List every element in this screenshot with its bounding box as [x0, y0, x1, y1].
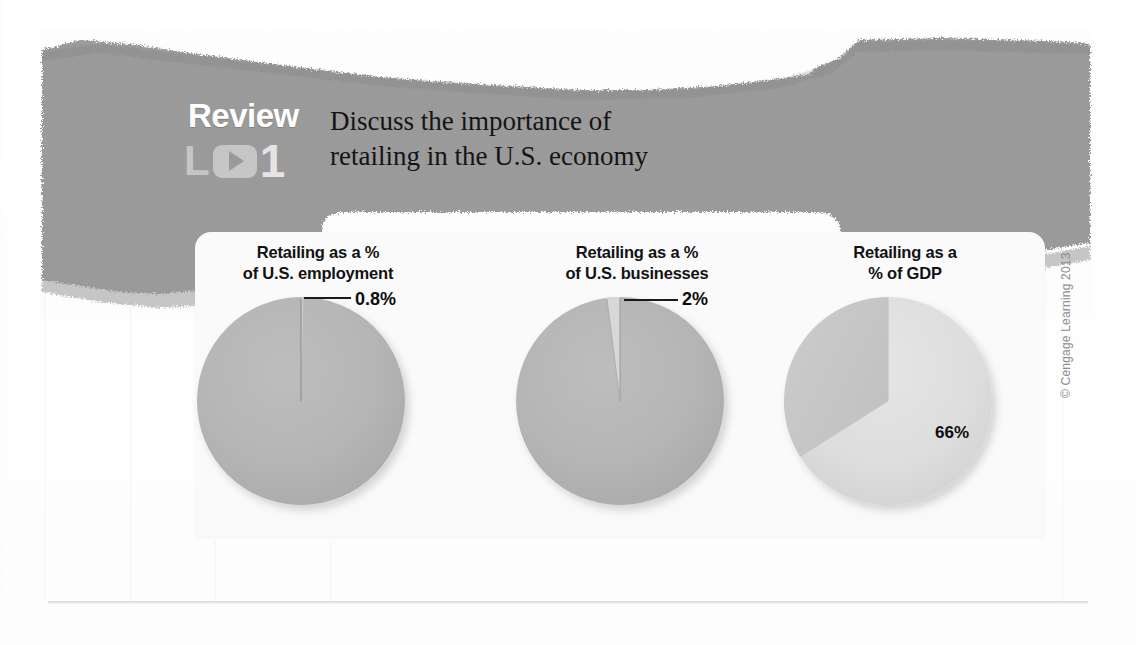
- pie-chart-gdp: Retailing as a % of GDP: [760, 232, 1050, 519]
- learning-objective-badge: L 1: [184, 138, 285, 184]
- lo-letter: L: [184, 140, 209, 182]
- pie-value-label: 66%: [935, 423, 969, 443]
- chart-title-line-1: Retailing as a %: [173, 242, 463, 263]
- scan-rule: [44, 284, 45, 602]
- pie-chart-businesses: Retailing as a % of U.S. businesses: [492, 232, 782, 519]
- pie-value-label: 2%: [682, 289, 708, 310]
- pie-chart-employment: Retailing as a % of U.S. employment: [173, 232, 463, 519]
- chart-title: Retailing as a % of U.S. employment: [173, 242, 463, 283]
- copyright-notice: © Cengage Learning 2013: [1059, 218, 1073, 398]
- chart-title-line-1: Retailing as a %: [492, 242, 782, 263]
- pie-holder: 66%: [760, 289, 1050, 519]
- chart-title-line-2: of U.S. businesses: [492, 263, 782, 284]
- chart-title: Retailing as a % of U.S. businesses: [492, 242, 782, 283]
- play-icon: [213, 145, 257, 178]
- textbook-review-figure: Review L 1 Discuss the importance of ret…: [0, 0, 1136, 645]
- pie-holder: 2%: [492, 289, 782, 519]
- objective-line-1: Discuss the importance of: [330, 104, 790, 139]
- pie-holder: 0.8%: [173, 289, 463, 519]
- learning-objective-text: Discuss the importance of retailing in t…: [330, 104, 790, 173]
- chart-title-line-2: % of GDP: [760, 263, 1050, 284]
- chart-title-line-1: Retailing as a: [760, 242, 1050, 263]
- page-bottom-edge: [48, 601, 1088, 604]
- scan-rule: [130, 300, 131, 602]
- pie-value-label: 0.8%: [355, 289, 396, 310]
- review-label: Review: [188, 97, 299, 135]
- objective-line-2: retailing in the U.S. economy: [330, 139, 790, 174]
- chart-title-line-2: of U.S. employment: [173, 263, 463, 284]
- lo-number: 1: [260, 138, 286, 184]
- charts-row: Retailing as a % of U.S. employment: [195, 232, 1045, 552]
- chart-title: Retailing as a % of GDP: [760, 242, 1050, 283]
